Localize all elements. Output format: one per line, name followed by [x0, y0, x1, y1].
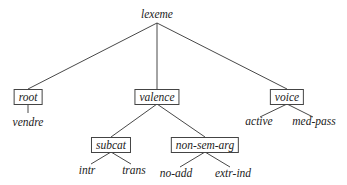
node-non-sem-arg: non-sem-arg	[171, 137, 239, 153]
edge-lexeme-root	[28, 23, 157, 89]
node-intr: intr	[79, 163, 96, 177]
node-valence: valence	[134, 89, 179, 105]
edge-valence-subcat	[111, 104, 157, 137]
node-lexeme: lexeme	[141, 7, 173, 21]
edge-lexeme-voice	[157, 23, 287, 89]
node-no-add: no-add	[160, 166, 193, 180]
node-root: root	[14, 89, 43, 105]
node-subcat: subcat	[91, 137, 131, 153]
node-voice: voice	[270, 89, 304, 105]
edge-valence-nonsemarg	[157, 104, 205, 137]
edge-nonsemarg-noadd	[180, 152, 205, 167]
node-active: active	[245, 114, 272, 128]
node-vendre: vendre	[13, 115, 44, 129]
edge-nonsemarg-extrind	[205, 152, 230, 167]
node-trans: trans	[122, 163, 146, 177]
node-extr-ind: extr-ind	[215, 166, 251, 180]
node-med-pass: med-pass	[292, 114, 335, 128]
